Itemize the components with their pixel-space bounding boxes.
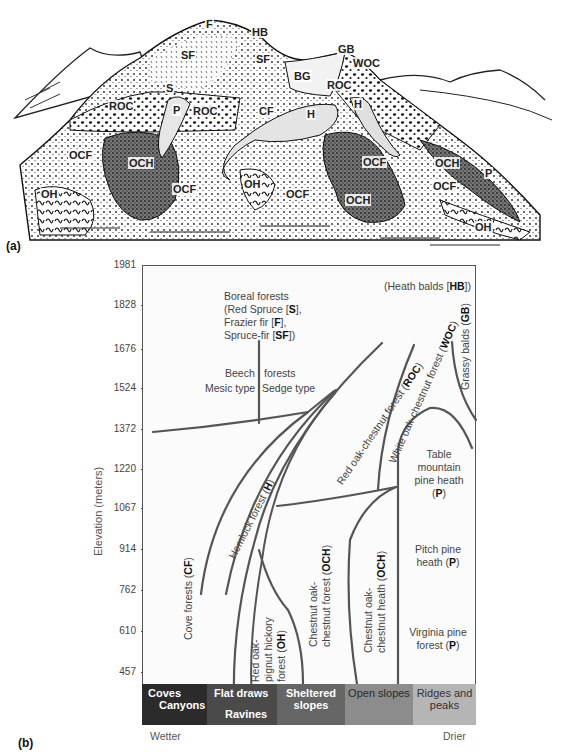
chestnut-oak-heath-label: Chestnut oak- chestnut heath (OCH) (362, 551, 388, 653)
habitat-ridges-peaks: Ridges and peaks (413, 684, 476, 725)
habitat-coves-canyons: Coves Canyons (142, 684, 207, 725)
chestnut-oak-forest-label: Chestnut oak- chestnut forest (OCH) (307, 545, 333, 647)
habitat-moisture-bar: Coves Canyons Flat draws Ravines Shelter… (142, 684, 476, 725)
habitat-sheltered-slopes: Sheltered slopes (277, 684, 345, 725)
panel-b-tag: (b) (18, 736, 33, 750)
habitat-flat-draws-ravines: Flat draws Ravines (207, 684, 277, 725)
mesic-type-label: Mesic type (205, 382, 255, 395)
pitch-pine-label: Pitch pine heath (P) (408, 543, 468, 569)
drier-label: Drier (443, 730, 466, 742)
virginia-pine-label: Virginia pine forest (P) (403, 626, 473, 652)
table-mountain-pine-label: Table mountain pine heath (P) (414, 448, 464, 500)
cove-forests-label: Cove forests (CF) (182, 557, 195, 640)
habitat-open-slopes: Open slopes (345, 684, 413, 725)
wetter-label: Wetter (150, 730, 181, 742)
grassy-balds-label: Grassy balds (GB) (459, 303, 472, 390)
red-oak-hickory-label: Red oak- pignut hickory forest (OH) (249, 617, 288, 682)
heath-balds-label: (Heath balds [HB]) (384, 280, 471, 293)
sedge-type-label: Sedge type (262, 382, 315, 395)
boreal-forests-label: Boreal forests (Red Spruce [S], Frazier … (224, 290, 302, 342)
forests-label: forests (264, 367, 296, 380)
beech-label: Beech (225, 367, 255, 380)
